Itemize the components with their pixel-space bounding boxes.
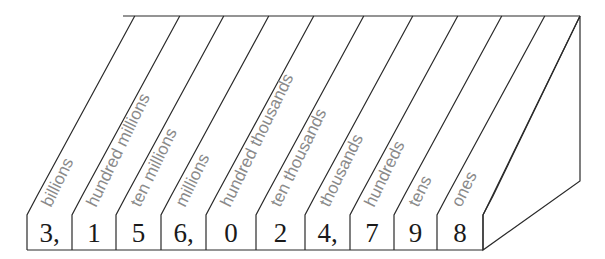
digit: 3, xyxy=(39,218,59,248)
digit: 2 xyxy=(274,218,288,248)
digit: 6, xyxy=(173,218,193,248)
place-label: tens xyxy=(405,173,436,210)
digit: 8 xyxy=(453,218,467,248)
place-column: 4,thousands xyxy=(316,131,367,248)
place-column: 6,millions xyxy=(172,150,214,248)
column-divider xyxy=(305,16,413,250)
digit: 9 xyxy=(409,218,423,248)
place-label: billions xyxy=(38,155,78,210)
place-column: 7hundreds xyxy=(361,138,409,248)
place-column: 9tens xyxy=(405,173,436,248)
digit: 1 xyxy=(87,218,101,248)
digit: 0 xyxy=(224,218,238,248)
place-value-chart: 3,billions1hundred millions5ten millions… xyxy=(0,0,605,259)
place-label: hundreds xyxy=(361,138,409,210)
place-column: 8ones xyxy=(448,168,481,248)
digit: 4, xyxy=(317,218,337,248)
place-label: ones xyxy=(448,168,481,209)
column-divider xyxy=(350,16,458,250)
digit: 7 xyxy=(365,218,379,248)
side-face xyxy=(483,16,580,250)
place-label: millions xyxy=(172,150,214,209)
digit: 5 xyxy=(132,218,146,248)
